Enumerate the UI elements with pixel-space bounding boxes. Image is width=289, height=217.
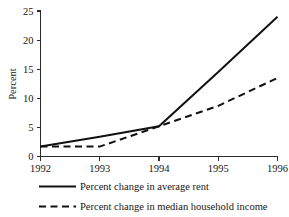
y-tick-label: 25 [23, 6, 34, 17]
x-tick-label: 1994 [149, 163, 171, 174]
data-series-group [41, 17, 278, 147]
chart-figure: 0510152025 19921993199419951996 Percent … [0, 0, 289, 217]
y-tick-label: 5 [28, 122, 33, 133]
y-tick-label: 10 [23, 93, 34, 104]
plot-axes [41, 11, 278, 157]
x-tick-label: 1996 [267, 163, 288, 174]
series-line-median-household-income [41, 78, 278, 147]
legend-label-median-household-income: Percent change in median household incom… [80, 201, 268, 212]
y-tick-label: 15 [23, 64, 34, 75]
legend-label-average-rent: Percent change in average rent [80, 181, 209, 192]
y-tick-label: 20 [23, 35, 34, 46]
x-axis-ticks: 19921993199419951996 [30, 157, 288, 174]
legend-item-average-rent: Percent change in average rent [39, 181, 209, 192]
y-axis-title: Percent [7, 68, 18, 100]
legend-item-median-household-income: Percent change in median household incom… [39, 201, 268, 212]
x-tick-label: 1995 [208, 163, 229, 174]
x-tick-label: 1993 [89, 163, 110, 174]
chart-legend: Percent change in average rent Percent c… [39, 181, 268, 212]
x-tick-label: 1992 [30, 163, 51, 174]
y-axis-ticks: 0510152025 [23, 6, 41, 163]
y-tick-label: 0 [28, 151, 33, 162]
line-chart: 0510152025 19921993199419951996 Percent … [0, 0, 289, 217]
